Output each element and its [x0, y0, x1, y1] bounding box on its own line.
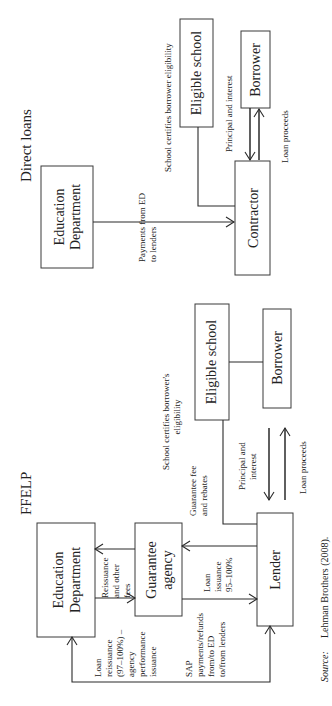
direct-ed-label-2: Department: [68, 184, 83, 250]
source-note: Source: Lehman Brothers (2008).: [319, 537, 331, 682]
source-label: Source:: [319, 651, 330, 682]
direct-loans-title: Direct loans: [18, 109, 34, 182]
ffelp-principal-label-1: Principal and: [237, 442, 247, 490]
ffelp-principal-label-2: interest: [248, 453, 258, 480]
direct-loans-panel: Direct loans Education Department Paymen…: [18, 19, 290, 275]
ffelp-ed-label-1: Education: [51, 552, 66, 609]
direct-payments-label-1: Payments from ED: [137, 193, 147, 262]
direct-payments-label-2: to lenders: [148, 226, 158, 262]
direct-ed-box: [41, 166, 93, 268]
ffelp-sap-label-3: from/to ED: [206, 635, 216, 677]
ffelp-guarantee-fee-label-1: Guarantee fee: [188, 466, 198, 516]
ffelp-reissuance-fees-label-2: and other: [111, 564, 121, 598]
ffelp-guarantee-label-2: agency: [160, 550, 175, 590]
direct-principal-label: Principal and interest: [224, 75, 234, 152]
ffelp-lender-label: Lender: [268, 550, 283, 590]
ffelp-proceeds-label: Loan proceeds: [298, 441, 308, 494]
ffelp-guarantee-label-1: Guarantee: [144, 541, 159, 599]
ffelp-loan-reissuance-label-6: issuance: [148, 647, 158, 678]
ffelp-certify-label-1: School certifies borrower's: [161, 373, 171, 470]
ffelp-title: FFELP: [18, 472, 34, 515]
ffelp-loan-reissuance-label-2: reissuance: [104, 640, 114, 677]
direct-ed-label-1: Education: [52, 189, 67, 246]
ffelp-loan-reissuance-label-5: performance: [137, 632, 147, 677]
ffelp-panel: FFELP Education Department Guarantee age…: [18, 304, 308, 682]
ffelp-loan-reissuance-label-1: Loan: [93, 658, 103, 677]
ffelp-guarantee-fee-label-2: and rebates: [199, 475, 209, 516]
ffelp-sap-label-1: SAP: [184, 660, 194, 677]
ffelp-borrower-label: Borrower: [270, 331, 285, 385]
direct-proceeds-label: Loan proceeds: [280, 110, 290, 163]
ffelp-ed-label-2: Department: [68, 547, 83, 613]
ffelp-school-label: Eligible school: [204, 320, 219, 404]
ffelp-sap-label-2: payments/refunds: [195, 613, 205, 677]
direct-contractor-label: Contractor: [246, 188, 261, 248]
loan-flow-diagram: Direct loans Education Department Paymen…: [0, 0, 332, 706]
ffelp-loan-reissuance-label-4: agency: [126, 651, 136, 677]
ffelp-loan-issuance-label-2: issuance: [213, 562, 223, 593]
direct-certify-label: School certifies borrower eligibility: [163, 43, 173, 172]
ffelp-certify-label-2: eligibility: [172, 399, 182, 434]
ffelp-loan-issuance-label-3: 95–100%: [224, 557, 234, 592]
source-text: Lehman Brothers (2008).: [319, 537, 331, 638]
direct-borrower-label: Borrower: [248, 43, 263, 97]
ffelp-sap-label-4: to/from lenders: [217, 621, 227, 677]
ffelp-loan-issuance-label-1: Loan: [202, 573, 212, 592]
ffelp-loan-reissuance-label-3: (97–100%) –: [115, 629, 125, 677]
direct-school-label: Eligible school: [189, 31, 204, 115]
ffelp-reissuance-fees-label-3: fees: [122, 583, 132, 598]
ffelp-reissuance-fees-label-1: Reissuance: [100, 558, 110, 599]
ffelp-ed-box: [37, 523, 95, 637]
